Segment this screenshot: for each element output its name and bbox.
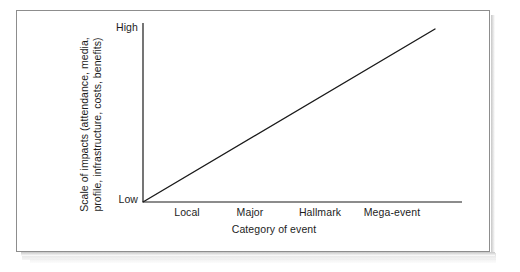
x-axis-title: Category of event	[194, 223, 354, 235]
series-line-scale-of-impacts	[143, 29, 435, 202]
figure-page: High Low Scale of impacts (attendance, m…	[0, 0, 520, 272]
x-axis-category-label-mega-event: Mega-event	[352, 206, 432, 218]
x-axis-category-label-major: Major	[210, 206, 290, 218]
y-axis-title: Scale of impacts (attendance, media, pro…	[78, 29, 103, 221]
y-axis-title-line-2: profile, infrastructure, costs, benefits…	[90, 29, 103, 221]
chart-plot-area: High Low Scale of impacts (attendance, m…	[0, 0, 520, 272]
y-axis-title-line-1: Scale of impacts (attendance, media,	[78, 29, 91, 221]
x-axis-category-label-hallmark: Hallmark	[280, 206, 360, 218]
